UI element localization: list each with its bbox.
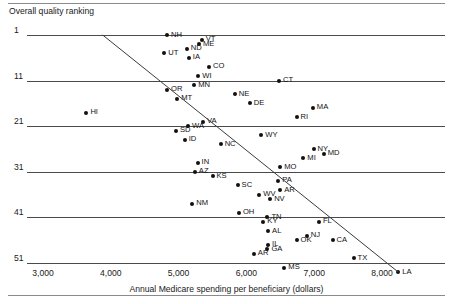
data-point-MA [311, 106, 315, 110]
data-point-AR [278, 188, 282, 192]
gridline-rank-41 [27, 217, 445, 218]
data-point-ND [185, 47, 189, 51]
data-point-label: GA [271, 245, 282, 253]
x-tick-label: 8,000 [371, 268, 393, 278]
data-point-IL [266, 243, 270, 247]
data-point-label: ID [189, 135, 197, 143]
data-point-label: WI [202, 72, 211, 80]
data-point-MT [175, 97, 179, 101]
x-tick-label: 7,000 [303, 268, 325, 278]
data-point-label: AR [284, 186, 295, 194]
data-point-MI [301, 156, 305, 160]
data-point-label: NV [274, 195, 285, 203]
data-point-label: MN [198, 81, 210, 89]
data-point-IA [187, 56, 191, 60]
data-point-label: MS [288, 263, 299, 271]
data-point-label: AR [258, 249, 269, 257]
data-point-OH [237, 211, 241, 215]
data-point-OR [165, 88, 169, 92]
data-point-FL [317, 220, 321, 224]
data-point-label: VA [207, 117, 217, 125]
data-point-MD [322, 152, 326, 156]
data-point-label: NE [239, 90, 250, 98]
data-point-WY [259, 133, 263, 137]
data-point-CT [277, 79, 281, 83]
data-point-label: LA [402, 268, 411, 276]
data-point-label: MA [317, 103, 328, 111]
data-point-label: WA [192, 122, 204, 130]
data-point-CO [207, 65, 211, 69]
data-point-NM [190, 202, 194, 206]
data-point-KS [211, 174, 215, 178]
data-point-label: OR [171, 85, 182, 93]
data-point-AZ [193, 170, 197, 174]
data-point-label: NH [171, 31, 182, 39]
data-point-label: IA [193, 53, 200, 61]
data-point-label: CA [337, 236, 348, 244]
x-axis-title: Annual Medicare spending per beneficiary… [0, 284, 453, 294]
data-point-DE [248, 101, 252, 105]
data-point-MO [278, 165, 282, 169]
data-point-MS [282, 266, 286, 270]
data-point-label: MD [328, 149, 340, 157]
data-point-label: WY [265, 131, 277, 139]
y-tick-label: 31 [14, 162, 24, 172]
data-point-NE [233, 92, 237, 96]
data-point-NV [268, 197, 272, 201]
data-point-label: AL [272, 227, 281, 235]
x-tick-label: 5,000 [168, 268, 190, 278]
bottom-divider-rule [8, 295, 445, 296]
data-point-SD [174, 129, 178, 133]
x-tick-label: 6,000 [236, 268, 258, 278]
data-point-TX [352, 256, 356, 260]
data-point-label: DE [254, 99, 265, 107]
y-tick-label: 11 [14, 71, 23, 81]
data-point-label: HI [90, 108, 98, 116]
data-point-label: KY [267, 217, 277, 225]
data-point-label: ND [191, 44, 202, 52]
data-point-MN [192, 83, 196, 87]
data-point-WV [257, 193, 261, 197]
data-point-IN [196, 161, 200, 165]
data-point-UT [162, 51, 166, 55]
y-tick-label: 41 [14, 207, 24, 217]
data-point-AL [266, 229, 270, 233]
data-point-label: MI [307, 154, 315, 162]
data-point-ID [183, 138, 187, 142]
data-point-label: CO [213, 62, 224, 70]
data-point-label: SD [180, 126, 191, 134]
data-point-label: CT [283, 76, 293, 84]
data-point-NH [165, 33, 169, 37]
x-tick-label: 3,000 [32, 268, 54, 278]
data-point-label: UT [168, 49, 178, 57]
data-point-label: OK [301, 236, 312, 244]
data-point-label: SC [242, 181, 253, 189]
y-tick-label: 21 [14, 116, 24, 126]
data-point-SC [236, 183, 240, 187]
data-point-RI [295, 115, 299, 119]
data-point-label: MO [284, 163, 296, 171]
data-point-WI [196, 74, 200, 78]
data-point-label: NC [225, 140, 236, 148]
x-tick-label: 4,000 [100, 268, 122, 278]
data-point-label: TX [358, 254, 368, 262]
data-point-HI [84, 111, 88, 115]
gridline-rank-21 [27, 126, 445, 127]
plot-area: 111213141513,0004,0005,0006,0007,0008,00… [0, 0, 453, 304]
data-point-label: KS [217, 172, 227, 180]
data-point-NC [219, 142, 223, 146]
data-point-label: IN [202, 158, 210, 166]
data-point-label: NJ [311, 231, 320, 239]
data-point-AR [252, 252, 256, 256]
data-point-label: NM [196, 199, 208, 207]
y-tick-label: 1 [14, 25, 19, 35]
data-point-label: PA [282, 176, 292, 184]
gridline-rank-31 [27, 172, 445, 173]
data-point-label: OH [243, 208, 254, 216]
data-point-label: RI [301, 113, 309, 121]
gridline-rank-11 [27, 81, 445, 82]
data-point-NY [312, 147, 316, 151]
data-point-LA [396, 270, 400, 274]
data-point-OK [295, 238, 299, 242]
y-tick-label: 51 [14, 253, 24, 263]
